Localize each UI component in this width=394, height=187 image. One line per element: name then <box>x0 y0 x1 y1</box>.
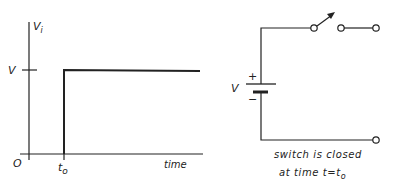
output-bottom-terminal <box>373 137 379 143</box>
step-signal <box>64 70 200 154</box>
x-axis-label: time <box>164 159 187 170</box>
minus-sign: − <box>248 93 257 106</box>
source-label: V <box>231 82 240 95</box>
y-tick-label: V <box>8 64 17 77</box>
output-top-terminal <box>373 25 379 31</box>
bottom-wire <box>261 92 373 140</box>
circuit <box>246 12 379 143</box>
plus-sign: + <box>248 70 257 83</box>
origin-label: O <box>13 157 22 170</box>
switch-pivot-terminal <box>311 25 317 31</box>
caption-line-1: switch is closed <box>274 149 362 160</box>
switch-contact-terminal <box>338 25 344 31</box>
x-tick-label: to <box>58 161 68 176</box>
y-axis-label: Vi <box>33 20 44 35</box>
diagram-canvas: Vi V O to time + V − switch is closed at… <box>0 0 394 187</box>
top-wire <box>261 28 311 84</box>
caption-line-2: at time t=to <box>279 167 346 181</box>
step-graph <box>20 22 203 160</box>
